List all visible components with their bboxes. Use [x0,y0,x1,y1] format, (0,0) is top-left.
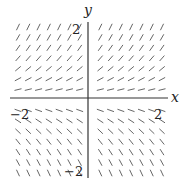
slope-segment [76,109,83,111]
slope-segment [26,129,31,134]
slope-segment [47,149,51,155]
slope-segment [37,45,41,51]
slope-segment [118,77,124,80]
slope-segment [26,66,32,71]
slope-segment [138,109,145,111]
slope-segment [78,45,82,51]
slope-field-diagram: y x 2 −2 −2 2 [0,0,185,183]
slope-segment [139,66,145,71]
slope-segment [47,170,50,177]
slope-segment [159,66,165,71]
slope-segment [35,77,41,80]
slope-segment [16,45,20,51]
slope-segment [97,77,103,80]
slope-segment [68,34,72,40]
slope-segment [36,56,41,61]
slope-segment [138,89,145,91]
slope-segment [25,77,31,80]
slope-segment [47,45,51,51]
slope-segment [129,129,134,134]
slope-segment [57,149,61,155]
slope-segment [129,45,133,51]
slope-segment [26,45,30,51]
slope-segment [98,45,102,51]
slope-segment [107,77,113,80]
slope-segment [150,170,153,177]
slope-segment [140,34,144,40]
slope-segment [129,56,134,61]
slope-segment [15,89,22,91]
slope-segment [108,119,114,123]
slope-segment [139,45,143,51]
slope-segment [160,24,163,30]
slope-segment [56,66,62,71]
slope-segment [109,24,112,30]
slope-segment [108,129,113,134]
slope-segment [47,24,50,30]
slope-segment [149,66,155,71]
slope-segment [78,149,82,155]
slope-segment [67,139,72,145]
slope-segment [109,149,113,155]
slope-segment [26,34,30,40]
slope-segment [129,149,133,155]
slope-segment [37,170,40,177]
slope-segment [16,170,19,177]
slope-segment [149,129,154,134]
slope-segment [16,34,20,40]
slope-segment [150,34,154,40]
slope-segment [98,34,102,40]
slope-segment [98,129,103,134]
slope-segment [36,129,41,134]
slope-segment [128,109,135,111]
slope-segment [56,77,62,80]
slope-segment [37,24,40,30]
slope-segment [56,89,63,91]
slope-segment [67,129,72,134]
slope-segment [140,159,143,165]
slope-segment [99,159,102,165]
slope-segment [67,66,73,71]
slope-segment [109,159,112,165]
slope-segment [58,170,61,177]
slope-segment [16,149,20,155]
slope-segment [119,45,123,51]
slope-segment [148,89,155,91]
slope-segment [98,66,104,71]
slope-segment [140,24,143,30]
slope-segment [67,45,71,51]
slope-segment [139,139,144,145]
slope-segment [35,109,42,111]
slope-segment [67,56,72,61]
slope-segment [98,149,102,155]
slope-segment [138,119,144,123]
slope-segment [109,170,112,177]
slope-segment [46,77,52,80]
slope-segment [77,66,83,71]
slope-segment [130,24,133,30]
slope-segment [149,77,155,80]
slope-segment [97,89,104,91]
slope-segment [37,159,40,165]
slope-segment [99,170,102,177]
slope-segment [57,129,62,134]
slope-segment [15,66,21,71]
slope-segment [160,139,165,145]
slope-segment [118,129,123,134]
slope-segment [160,149,164,155]
slope-segment [57,139,62,145]
slope-segment [139,149,143,155]
slope-segment [16,139,21,145]
slope-segment [68,24,71,30]
slope-segment [160,56,165,61]
slope-segment [149,139,154,145]
slope-segment [56,119,62,123]
slope-segment [57,45,61,51]
slope-segment [108,56,113,61]
slope-segment [129,159,132,165]
slope-segment [56,109,63,111]
slope-segment [27,159,30,165]
slope-segment [118,56,123,61]
slope-segment [37,149,41,155]
slope-segment [46,129,51,134]
